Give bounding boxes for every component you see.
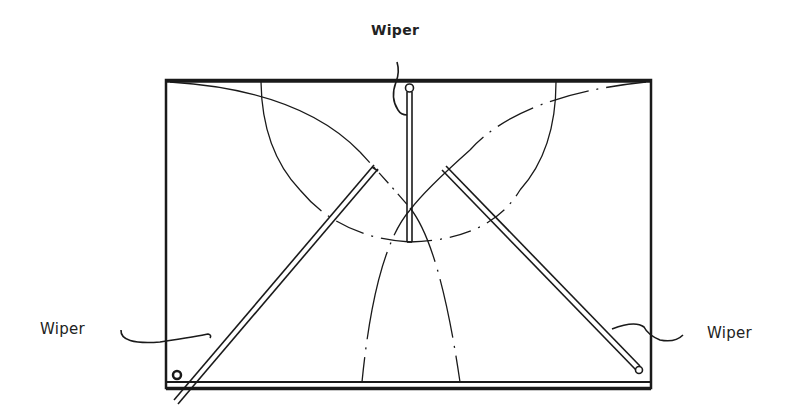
wiper-label-left: Wiper <box>40 320 85 338</box>
right-leader <box>612 324 683 341</box>
left-wiper-arm <box>173 165 378 404</box>
center-wiper-sweep-arc <box>261 82 556 242</box>
wiper-label-top: Wiper <box>371 22 419 38</box>
window-frame <box>166 80 651 389</box>
wiper-label-right: Wiper <box>707 324 752 342</box>
right-wiper-arm <box>442 166 643 374</box>
center-wiper-arm <box>406 84 414 242</box>
left-wiper-sweep-arc <box>170 82 460 382</box>
wiper-diagram <box>0 0 803 416</box>
label-leaders <box>121 62 683 343</box>
